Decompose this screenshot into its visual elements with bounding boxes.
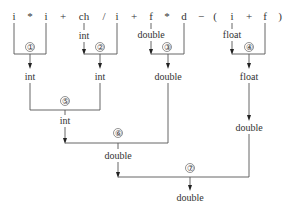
step-7-marker: ⑦ bbox=[187, 164, 194, 173]
float-promoted-type: double bbox=[235, 122, 263, 133]
i-converted-type: float bbox=[223, 29, 242, 40]
step-1-marker: ① bbox=[27, 43, 34, 52]
token-divide: / bbox=[102, 10, 106, 22]
step-4-result: float bbox=[240, 71, 259, 82]
float-promotion: double bbox=[235, 83, 263, 133]
step-6-result: double bbox=[104, 150, 132, 161]
step-6-bracket: ⑥ double bbox=[65, 83, 168, 178]
step-3-result: double bbox=[154, 71, 182, 82]
step-4-marker: ④ bbox=[246, 43, 253, 52]
step-1-bracket: ① int bbox=[14, 23, 46, 82]
f-conversion: double bbox=[137, 23, 165, 55]
token-d: d bbox=[181, 10, 187, 22]
token-ch: ch bbox=[79, 10, 90, 22]
step-5-marker: ⑤ bbox=[62, 97, 69, 106]
arrow-down-icon bbox=[247, 115, 251, 121]
arrow-down-icon bbox=[28, 63, 32, 69]
step-7-bracket: ⑦ double bbox=[118, 134, 249, 203]
i-conversion: float bbox=[223, 23, 242, 55]
token-i-1: i bbox=[12, 10, 15, 22]
arrow-down-icon bbox=[188, 185, 192, 191]
token-f-2: f bbox=[263, 10, 267, 22]
arrow-down-icon bbox=[247, 63, 251, 69]
step-6-marker: ⑥ bbox=[115, 129, 122, 138]
step-5-result: int bbox=[60, 115, 71, 126]
step-2-marker: ② bbox=[97, 43, 104, 52]
f-converted-type: double bbox=[137, 29, 165, 40]
expression-row: i * i + ch / i + f * d − ( i + f ) bbox=[12, 10, 282, 23]
arrow-down-icon bbox=[98, 63, 102, 69]
step-5-bracket: ⑤ int bbox=[30, 83, 100, 144]
token-close-paren: ) bbox=[278, 10, 282, 23]
arrow-down-icon bbox=[166, 63, 170, 69]
step-1-result: int bbox=[25, 71, 36, 82]
token-i-3: i bbox=[115, 10, 118, 22]
token-f-1: f bbox=[149, 10, 153, 22]
token-multiply-2: * bbox=[164, 10, 170, 22]
ch-conversion: int bbox=[79, 23, 90, 55]
ch-converted-type: int bbox=[79, 30, 90, 41]
token-multiply-1: * bbox=[27, 10, 33, 22]
token-plus-3: + bbox=[246, 10, 252, 22]
type-conversion-diagram: i * i + ch / i + f * d − ( i + f ) ① int… bbox=[0, 0, 288, 210]
token-i-4: i bbox=[230, 10, 233, 22]
step-3-marker: ③ bbox=[164, 43, 171, 52]
step-2-result: int bbox=[95, 71, 106, 82]
step-7-result: double bbox=[176, 192, 204, 203]
token-minus: − bbox=[198, 10, 204, 22]
token-plus-2: + bbox=[131, 10, 137, 22]
token-i-2: i bbox=[44, 10, 47, 22]
token-open-paren: ( bbox=[213, 10, 217, 23]
token-plus-1: + bbox=[60, 10, 66, 22]
